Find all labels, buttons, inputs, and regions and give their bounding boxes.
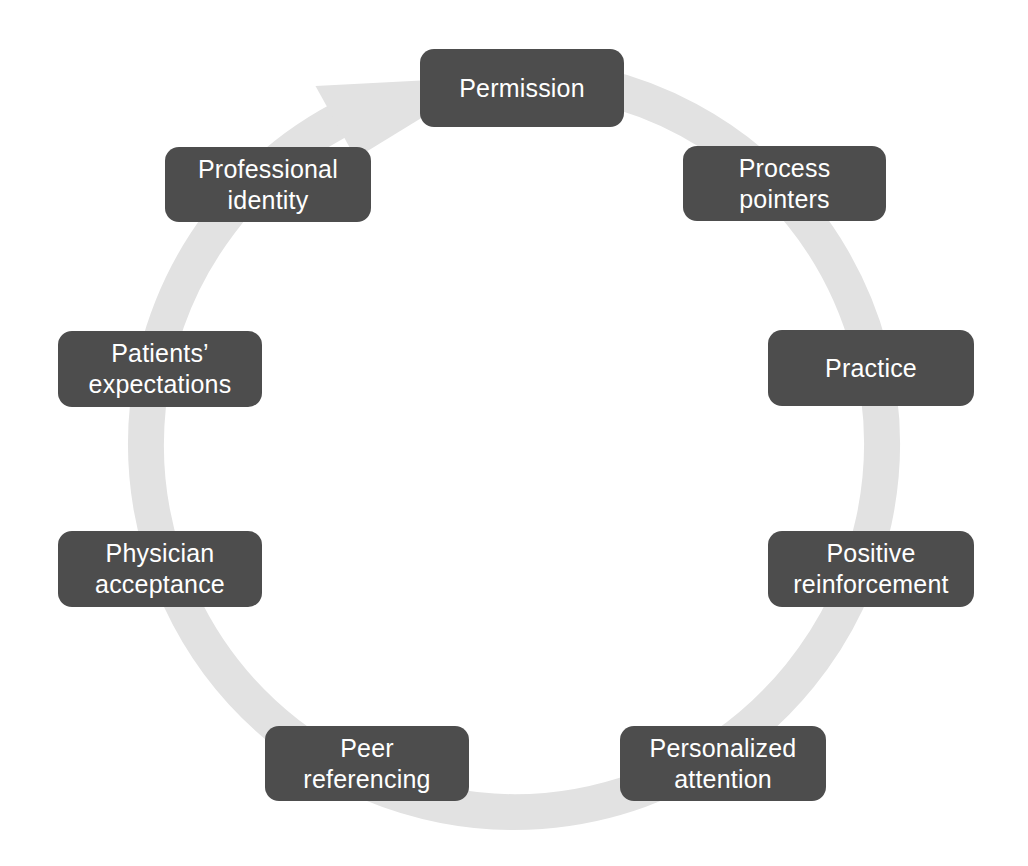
cycle-ring	[0, 0, 1028, 866]
node-patients-expectations[interactable]: Patients’ expectations	[58, 331, 262, 407]
cycle-diagram: Permission Process pointers Practice Pos…	[0, 0, 1028, 866]
node-personalized-attention[interactable]: Personalized attention	[620, 726, 826, 801]
node-professional-identity[interactable]: Professional identity	[165, 147, 371, 222]
node-positive-reinforcement[interactable]: Positive reinforcement	[768, 531, 974, 607]
node-process-pointers[interactable]: Process pointers	[683, 146, 886, 221]
node-peer-referencing[interactable]: Peer referencing	[265, 726, 469, 801]
node-permission[interactable]: Permission	[420, 49, 624, 127]
node-physician-acceptance[interactable]: Physician acceptance	[58, 531, 262, 607]
node-practice[interactable]: Practice	[768, 330, 974, 406]
